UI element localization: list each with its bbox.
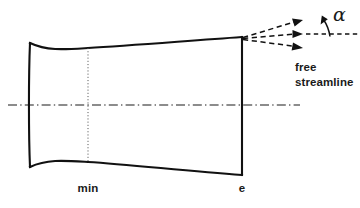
- angle-arc-arrowhead: [321, 15, 328, 24]
- label-station-exit: e: [239, 182, 246, 196]
- diagram-canvas: [0, 0, 360, 208]
- nozzle-inlet-plane: [29, 43, 30, 167]
- free-streamline-lower: [243, 40, 296, 47]
- label-angle-alpha: α: [333, 3, 346, 25]
- label-free-streamline-line2: streamline: [295, 76, 354, 90]
- free-streamline-middle-arrowhead: [293, 30, 304, 38]
- free-streamline-upper-arrowhead: [292, 18, 303, 26]
- label-free-streamline-line1: free: [295, 61, 317, 75]
- nozzle-free-streamline-diagram: min e free streamline α: [0, 0, 360, 208]
- nozzle-upper-wall: [30, 37, 242, 49]
- free-streamline-middle: [243, 34, 296, 39]
- label-station-min: min: [77, 182, 98, 196]
- free-streamline-lower-arrowhead: [292, 42, 303, 50]
- nozzle-lower-wall: [30, 161, 242, 175]
